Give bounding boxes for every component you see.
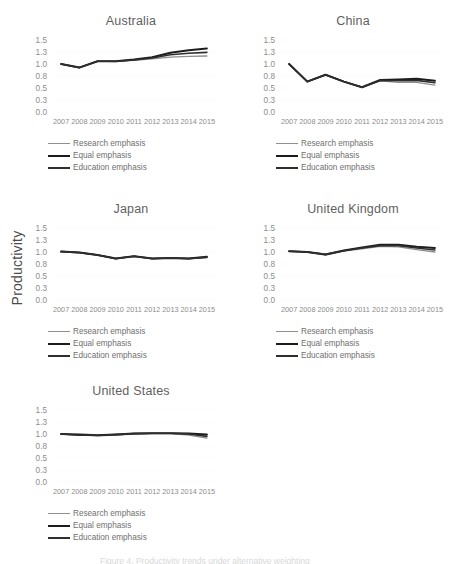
legend-label-research: Research emphasis (301, 327, 373, 336)
legend-australia: Research emphasisEqual emphasisEducation… (22, 139, 240, 175)
legend-label-equal: Equal emphasis (301, 339, 359, 348)
legend-swatch-equal-icon (48, 155, 70, 157)
panel-title-united-states: United States (22, 382, 240, 400)
y-tick-label: 0.0 (36, 108, 48, 117)
x-tick-label: 2010 (108, 487, 124, 496)
x-tick-label: 2008 (299, 117, 315, 126)
legend-item-research[interactable]: Research emphasis (276, 327, 373, 336)
legend-item-research[interactable]: Research emphasis (48, 509, 145, 518)
y-tick-label: 1.3 (264, 48, 276, 57)
legend-label-education: Education emphasis (301, 351, 375, 360)
legend-swatch-equal-icon (48, 525, 70, 527)
x-tick-label: 2009 (89, 487, 105, 496)
legend-label-research: Research emphasis (73, 509, 145, 518)
y-tick-label: 0.0 (36, 296, 48, 305)
legend-item-research[interactable]: Research emphasis (48, 327, 145, 336)
legend-item-education[interactable]: Education emphasis (276, 351, 447, 360)
x-tick-label: 2007 (281, 305, 297, 314)
x-tick-label: 2007 (53, 305, 69, 314)
panel-australia: Australia1.51.31.00.80.50.30.02007200820… (22, 12, 240, 175)
x-tick-label: 2013 (162, 487, 178, 496)
legend-item-equal[interactable]: Equal emphasis (276, 339, 359, 348)
panel-china: China1.51.31.00.80.50.30.020072008200920… (250, 12, 456, 175)
legend-item-equal[interactable]: Equal emphasis (276, 151, 359, 160)
x-tick-label: 2014 (181, 487, 197, 496)
x-tick-label: 2009 (89, 305, 105, 314)
x-tick-label: 2012 (372, 305, 388, 314)
legend-item-education[interactable]: Education emphasis (276, 163, 447, 172)
legend-item-equal[interactable]: Equal emphasis (48, 521, 131, 530)
y-tick-label: 0.0 (264, 108, 276, 117)
x-tick-label: 2008 (71, 487, 87, 496)
x-tick-label: 2012 (144, 117, 160, 126)
y-tick-label: 1.0 (36, 60, 48, 69)
y-tick-label: 0.8 (36, 72, 48, 81)
x-tick-label: 2015 (199, 487, 215, 496)
x-tick-label: 2011 (126, 305, 142, 314)
productivity-small-multiples-figure: Productivity Australia1.51.31.00.80.50.3… (0, 0, 456, 564)
y-tick-label: 1.3 (36, 236, 48, 245)
y-tick-label: 0.0 (36, 478, 48, 487)
legend-label-equal: Equal emphasis (73, 151, 131, 160)
y-tick-label: 0.5 (264, 84, 276, 93)
legend-swatch-education-icon (276, 355, 298, 357)
y-tick-label: 1.3 (264, 236, 276, 245)
x-tick-label: 2007 (53, 117, 69, 126)
x-tick-label: 2013 (162, 305, 178, 314)
panel-title-japan: Japan (22, 200, 240, 218)
x-tick-label: 2011 (354, 305, 370, 314)
legend-item-education[interactable]: Education emphasis (48, 163, 231, 172)
plot-area-australia: 1.51.31.00.80.50.30.02007200820092010201… (22, 34, 240, 134)
y-tick-label: 1.0 (264, 60, 276, 69)
plot-area-japan: 1.51.31.00.80.50.30.02007200820092010201… (22, 222, 240, 322)
legend-swatch-research-icon (48, 143, 70, 144)
y-tick-label: 0.8 (36, 260, 48, 269)
x-tick-label: 2010 (108, 117, 124, 126)
plot-area-united-states: 1.51.31.00.80.50.30.02007200820092010201… (22, 404, 240, 504)
series-line-equal (61, 48, 207, 67)
y-tick-label: 0.5 (36, 454, 48, 463)
legend-label-equal: Equal emphasis (301, 151, 359, 160)
x-tick-label: 2008 (299, 305, 315, 314)
y-tick-label: 0.8 (264, 260, 276, 269)
y-tick-label: 0.8 (36, 442, 48, 451)
legend-item-equal[interactable]: Equal emphasis (48, 151, 131, 160)
x-tick-label: 2009 (317, 117, 333, 126)
y-tick-label: 0.3 (264, 96, 276, 105)
legend-item-research[interactable]: Research emphasis (48, 139, 145, 148)
x-tick-label: 2007 (53, 487, 69, 496)
legend-swatch-research-icon (276, 143, 298, 144)
legend-label-education: Education emphasis (301, 163, 375, 172)
legend-swatch-equal-icon (48, 343, 70, 345)
x-tick-label: 2013 (390, 117, 406, 126)
legend-label-equal: Equal emphasis (73, 339, 131, 348)
y-tick-label: 1.0 (264, 248, 276, 257)
legend-swatch-education-icon (48, 537, 70, 539)
legend-japan: Research emphasisEqual emphasisEducation… (22, 327, 240, 363)
y-tick-label: 0.3 (36, 96, 48, 105)
x-tick-label: 2011 (354, 117, 370, 126)
legend-swatch-research-icon (276, 331, 298, 332)
x-tick-label: 2010 (336, 305, 352, 314)
y-tick-label: 1.5 (36, 406, 48, 415)
legend-label-research: Research emphasis (301, 139, 373, 148)
x-tick-label: 2009 (89, 117, 105, 126)
panel-japan: Japan1.51.31.00.80.50.30.020072008200920… (22, 200, 240, 363)
panel-title-china: China (250, 12, 456, 30)
legend-label-education: Education emphasis (73, 351, 147, 360)
legend-item-education[interactable]: Education emphasis (48, 533, 231, 542)
x-tick-label: 2007 (281, 117, 297, 126)
x-tick-label: 2013 (390, 305, 406, 314)
legend-item-equal[interactable]: Equal emphasis (48, 339, 131, 348)
x-tick-label: 2011 (126, 117, 142, 126)
y-tick-label: 0.5 (36, 84, 48, 93)
x-tick-label: 2012 (144, 487, 160, 496)
legend-swatch-research-icon (48, 331, 70, 332)
x-tick-label: 2012 (144, 305, 160, 314)
legend-item-research[interactable]: Research emphasis (276, 139, 373, 148)
x-tick-label: 2015 (199, 305, 215, 314)
legend-item-education[interactable]: Education emphasis (48, 351, 231, 360)
y-tick-label: 0.5 (36, 272, 48, 281)
legend-label-equal: Equal emphasis (73, 521, 131, 530)
x-tick-label: 2010 (336, 117, 352, 126)
